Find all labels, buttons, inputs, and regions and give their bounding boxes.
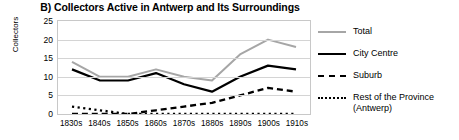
legend-swatch-icon — [318, 70, 346, 82]
legend-label: Suburb — [353, 70, 382, 81]
x-tick-label: 1870s — [170, 120, 198, 134]
y-tick-label: 20 — [35, 36, 53, 45]
x-tick-label: 1910s — [283, 120, 311, 134]
chart-title: B) Collectors Active in Antwerp and Its … — [0, 1, 340, 13]
x-tick-label: 1850s — [113, 120, 141, 134]
gridline — [58, 58, 310, 59]
series-line — [72, 40, 296, 81]
x-tick-label: 1890s — [226, 120, 254, 134]
y-tick-label: 25 — [35, 17, 53, 26]
x-axis-ticks: 1830s1840s1850s1860s1870s1880s1890s1900s… — [57, 120, 311, 134]
y-tick-label: 5 — [35, 91, 53, 100]
legend-label: Rest of the Province (Antwerp) — [353, 92, 434, 115]
legend-item[interactable]: Rest of the Province (Antwerp) — [318, 92, 459, 106]
x-tick-label: 1840s — [85, 120, 113, 134]
gridline — [58, 40, 310, 41]
series-line — [72, 66, 296, 92]
legend-swatch-icon — [318, 48, 346, 60]
gridline — [58, 95, 310, 96]
x-tick-label: 1880s — [198, 120, 226, 134]
legend-item[interactable]: City Centre — [318, 48, 459, 62]
series-line — [72, 88, 296, 114]
x-tick-label: 1860s — [142, 120, 170, 134]
legend-swatch-icon — [318, 92, 346, 104]
legend-swatch-icon — [318, 26, 346, 38]
y-tick-label: 10 — [35, 73, 53, 82]
legend-item[interactable]: Suburb — [318, 70, 459, 84]
chart-legend: TotalCity CentreSuburbRest of the Provin… — [318, 26, 459, 114]
plot-area — [57, 20, 311, 115]
series-lines — [58, 21, 310, 114]
gridline — [58, 77, 310, 78]
x-tick-label: 1830s — [57, 120, 85, 134]
x-tick-label: 1900s — [255, 120, 283, 134]
y-tick-label: 0 — [35, 110, 53, 119]
legend-item[interactable]: Total — [318, 26, 459, 40]
y-axis-title: Collectors — [11, 0, 20, 71]
legend-label: City Centre — [353, 48, 398, 59]
chart-figure: B) Collectors Active in Antwerp and Its … — [0, 0, 459, 140]
y-tick-label: 15 — [35, 54, 53, 63]
y-axis-ticks: 0510152025 — [33, 20, 53, 115]
legend-label: Total — [353, 26, 372, 37]
